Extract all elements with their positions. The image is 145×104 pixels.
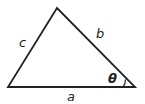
side-label-c: c: [19, 35, 26, 50]
angle-arc: [123, 80, 126, 88]
side-label-a: a: [67, 89, 75, 104]
triangle-diagram: c b a θ: [0, 0, 145, 104]
angle-label-theta: θ: [108, 71, 117, 86]
side-label-b: b: [96, 26, 104, 41]
